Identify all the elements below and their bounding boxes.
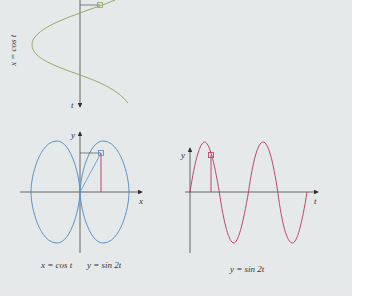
top-t-label: t xyxy=(71,100,74,110)
left-y-label: y xyxy=(71,130,75,140)
left-caption-x: x = cos t xyxy=(41,260,72,270)
right-y-label: y xyxy=(181,150,185,160)
left-caption-y: y = sin 2t xyxy=(87,260,121,270)
right-caption: y = sin 2t xyxy=(230,264,264,274)
top-curve-label: x = cos t xyxy=(8,35,18,66)
sine-curve xyxy=(190,142,307,243)
left-x-label: x xyxy=(139,196,143,206)
right-t-label: t xyxy=(314,196,317,206)
